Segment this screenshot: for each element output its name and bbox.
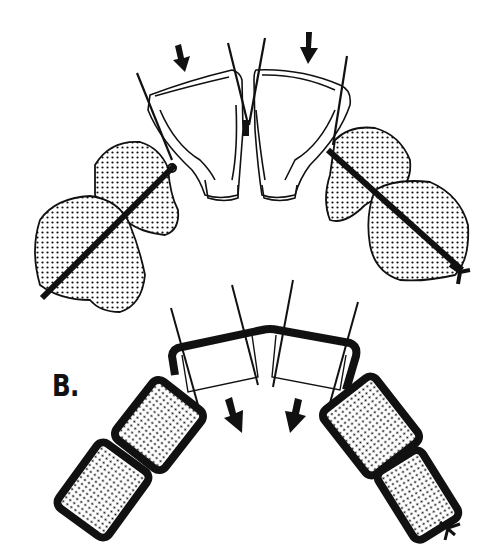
arrow-icon-top-left [173,44,190,72]
center-ligature [243,120,249,136]
panel-label-b: B. [52,368,78,403]
center-arch-bar [172,329,356,390]
diagram-graphic [0,0,498,554]
arrow-icon-bottom-left [224,397,243,433]
dental-diagram: B. [0,0,498,554]
arrow-icon-bottom-right [285,398,306,433]
arrow-icon-top-right [300,32,318,64]
